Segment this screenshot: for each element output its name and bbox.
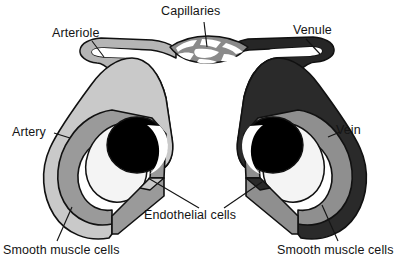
label-venule: Venule	[293, 24, 332, 37]
label-endothelial-cells: Endothelial cells	[144, 209, 236, 222]
capillary-bed-group	[170, 36, 248, 64]
label-smooth-muscle-cells-left: Smooth muscle cells	[3, 244, 120, 257]
vein-group	[237, 58, 366, 239]
label-arteriole: Arteriole	[52, 27, 99, 40]
label-capillaries: Capillaries	[161, 5, 220, 18]
label-smooth-muscle-cells-right: Smooth muscle cells	[277, 244, 394, 257]
label-artery: Artery	[12, 126, 46, 139]
blood-vessel-diagram: Capillaries Arteriole Venule Artery Vein…	[0, 0, 415, 266]
label-vein: Vein	[336, 124, 361, 137]
